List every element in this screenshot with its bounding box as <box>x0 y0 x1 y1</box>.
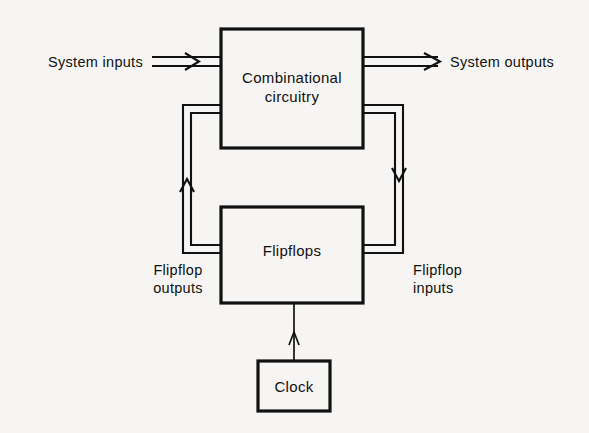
flipflop-inputs-label-line1: Flipflop <box>413 262 462 278</box>
clock-block: Clock <box>258 361 330 411</box>
flipflops-label: Flipflops <box>263 242 322 259</box>
diagram-svg: System inputs System outputs Flipflop ou… <box>0 0 589 433</box>
clock-label: Clock <box>274 378 313 395</box>
flipflop-inputs-label-line2: inputs <box>413 280 454 296</box>
system-outputs-connector <box>363 53 440 70</box>
flipflops-block: Flipflops <box>221 207 363 303</box>
combinational-circuitry-label-line2: circuitry <box>265 88 320 105</box>
arrowhead-right-icon <box>185 53 199 70</box>
combinational-circuitry-block: Combinational circuitry <box>221 29 363 148</box>
system-inputs-connector <box>152 53 221 70</box>
flipflop-outputs-label-line1: Flipflop <box>153 262 202 278</box>
flipflop-outputs-label-line2: outputs <box>153 280 203 296</box>
system-outputs-label: System outputs <box>450 54 554 70</box>
block-diagram-canvas: System inputs System outputs Flipflop ou… <box>0 0 589 433</box>
flipflop-outputs-feedback-connector <box>180 105 221 253</box>
combinational-circuitry-label-line1: Combinational <box>242 69 342 86</box>
flipflop-inputs-feedback-connector <box>363 105 406 253</box>
arrowhead-right-icon <box>424 53 440 70</box>
system-inputs-label: System inputs <box>48 54 143 70</box>
clock-connector <box>289 303 299 361</box>
